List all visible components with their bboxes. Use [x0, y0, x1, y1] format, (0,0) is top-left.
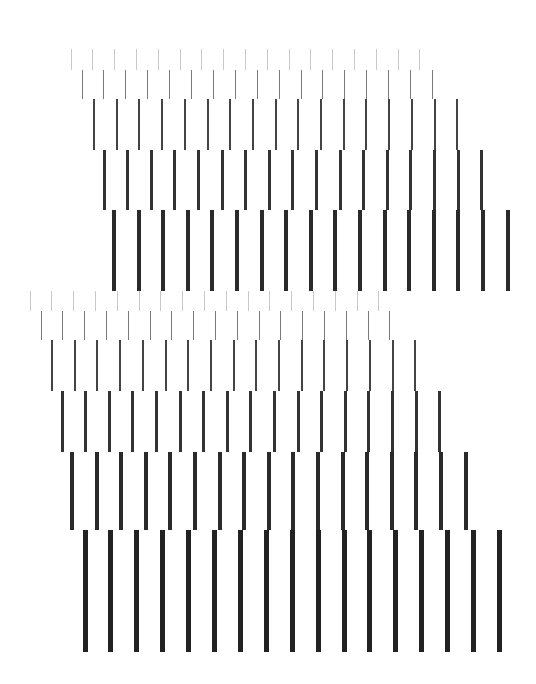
vertical-bar [150, 311, 151, 340]
vertical-bar [160, 291, 161, 311]
vertical-bar [259, 311, 260, 340]
vertical-bar [218, 452, 222, 530]
vertical-bar [392, 340, 394, 391]
vertical-bar [316, 530, 321, 652]
vertical-bar [108, 391, 111, 452]
vertical-bar [83, 530, 88, 652]
vertical-bar [51, 291, 52, 311]
vertical-bar [297, 391, 300, 452]
vertical-bar [61, 391, 64, 452]
vertical-bar [415, 391, 418, 452]
vertical-bar [51, 340, 53, 391]
vertical-bar [278, 340, 280, 391]
vertical-bar [290, 530, 295, 652]
vertical-bar [344, 391, 347, 452]
vertical-bar [155, 391, 158, 452]
vertical-bar [179, 391, 182, 452]
vertical-bar [186, 530, 191, 652]
vertical-bar [264, 530, 269, 652]
vertical-bar [62, 311, 63, 340]
vertical-bar [419, 530, 424, 652]
bar-row-3 [0, 340, 536, 391]
vertical-bar [182, 291, 183, 311]
vertical-bar [471, 530, 476, 652]
vertical-bar [204, 291, 205, 311]
vertical-bar [280, 311, 281, 340]
bar-cascade-artwork [0, 0, 536, 684]
vertical-bar [131, 391, 134, 452]
vertical-bar [144, 452, 148, 530]
bar-row-5 [0, 452, 536, 530]
vertical-bar [320, 391, 323, 452]
vertical-bar [210, 340, 212, 391]
vertical-bar [248, 291, 249, 311]
vertical-bar [70, 452, 74, 530]
vertical-bar [316, 452, 320, 530]
vertical-bar [273, 391, 276, 452]
vertical-bar [96, 340, 98, 391]
vertical-bar [269, 291, 270, 311]
vertical-bar [95, 291, 96, 311]
vertical-bar [365, 452, 369, 530]
vertical-bar [368, 311, 369, 340]
vertical-bar [212, 530, 217, 652]
vertical-bar [117, 291, 118, 311]
vertical-bar [414, 340, 416, 391]
vertical-bar [160, 530, 165, 652]
vertical-bar [242, 452, 246, 530]
vertical-bar [302, 311, 303, 340]
vertical-bar [238, 530, 243, 652]
lower-bar-cascade [0, 0, 536, 684]
vertical-bar [193, 452, 197, 530]
vertical-bar [367, 391, 370, 452]
vertical-bar [291, 452, 295, 530]
vertical-bar [95, 452, 99, 530]
vertical-bar [342, 530, 347, 652]
vertical-bar [378, 291, 379, 311]
vertical-bar [233, 340, 235, 391]
vertical-bar [237, 311, 238, 340]
vertical-bar [108, 530, 113, 652]
vertical-bar [30, 291, 31, 311]
vertical-bar [139, 291, 140, 311]
vertical-bar [393, 530, 398, 652]
vertical-bar [313, 291, 314, 311]
vertical-bar [249, 391, 252, 452]
vertical-bar [187, 340, 189, 391]
vertical-bar [346, 311, 347, 340]
vertical-bar [168, 452, 172, 530]
bar-row-4 [0, 391, 536, 452]
vertical-bar [193, 311, 194, 340]
vertical-bar [226, 391, 229, 452]
vertical-bar [357, 291, 358, 311]
vertical-bar [41, 311, 42, 340]
vertical-bar [119, 452, 123, 530]
vertical-bar [119, 340, 121, 391]
vertical-bar [445, 530, 450, 652]
vertical-bar [464, 452, 468, 530]
vertical-bar [84, 311, 85, 340]
vertical-bar [367, 530, 372, 652]
bar-row-6 [0, 530, 536, 652]
vertical-bar [171, 311, 172, 340]
vertical-bar [438, 391, 441, 452]
vertical-bar [301, 340, 303, 391]
vertical-bar [291, 291, 292, 311]
vertical-bar [324, 311, 325, 340]
vertical-bar [389, 311, 390, 340]
vertical-bar [323, 340, 325, 391]
vertical-bar [106, 311, 107, 340]
vertical-bar [497, 530, 502, 652]
vertical-bar [267, 452, 271, 530]
vertical-bar [202, 391, 205, 452]
vertical-bar [346, 340, 348, 391]
bar-row-1 [0, 291, 536, 311]
vertical-bar [73, 291, 74, 311]
vertical-bar [74, 340, 76, 391]
vertical-bar [255, 340, 257, 391]
vertical-bar [390, 452, 394, 530]
vertical-bar [414, 452, 418, 530]
vertical-bar [369, 340, 371, 391]
vertical-bar [215, 311, 216, 340]
vertical-bar [341, 452, 345, 530]
